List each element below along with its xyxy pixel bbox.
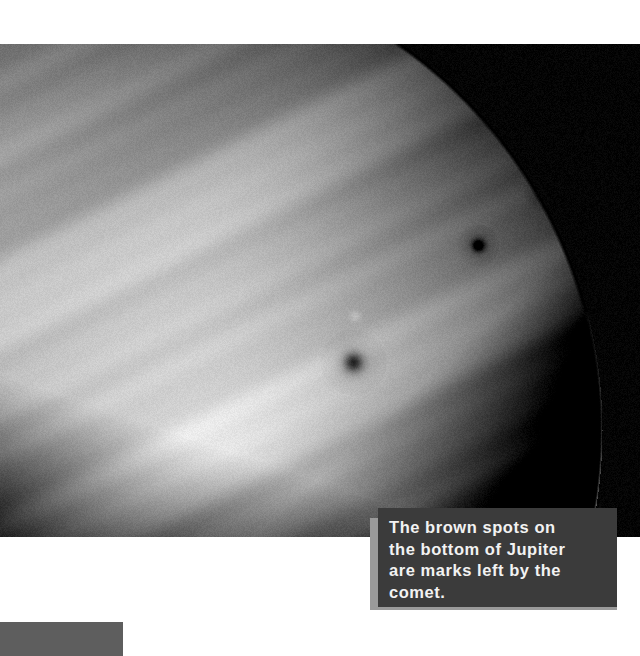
page-root: The brown spots on the bottom of Jupiter… — [0, 0, 640, 656]
caption-text: The brown spots on the bottom of Jupiter… — [389, 517, 607, 603]
jupiter-photograph — [0, 44, 640, 537]
jupiter-image-canvas — [0, 44, 640, 537]
caption-box: The brown spots on the bottom of Jupiter… — [378, 508, 617, 607]
bottom-left-gray-bar — [0, 622, 123, 656]
